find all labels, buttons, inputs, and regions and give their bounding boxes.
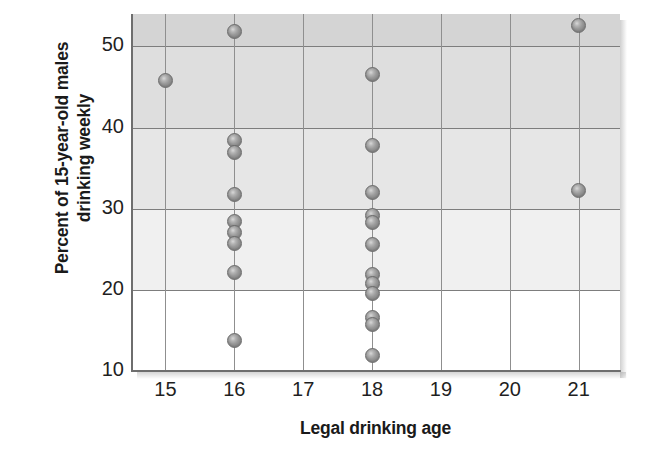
data-point [365, 286, 380, 301]
x-axis-tick-label: 20 [485, 378, 535, 401]
x-axis-tick-label: 17 [278, 378, 328, 401]
data-point [227, 236, 242, 251]
x-axis-tick-label: 16 [209, 378, 259, 401]
data-point [158, 73, 173, 88]
data-point [365, 317, 380, 332]
data-point [227, 333, 242, 348]
x-axis-tick-label: 21 [554, 378, 604, 401]
data-point [571, 18, 586, 33]
scatter-chart: Percent of 15-year-old males drinking we… [0, 0, 665, 454]
x-axis-tick-label: 15 [140, 378, 190, 401]
data-point [365, 237, 380, 252]
gridline-vertical [510, 14, 511, 371]
background-band [131, 14, 620, 46]
plot-area [131, 14, 620, 371]
data-point [365, 67, 380, 82]
gridline-horizontal [131, 128, 620, 129]
gridline-vertical [303, 14, 304, 371]
gridline-vertical [165, 14, 166, 371]
y-axis-line [131, 14, 133, 372]
plot-frame-shadow-right [620, 20, 627, 378]
data-point [227, 145, 242, 160]
gridline-vertical [441, 14, 442, 371]
y-axis-tick-label: 30 [80, 196, 124, 219]
x-axis-title: Legal drinking age [131, 418, 620, 439]
y-axis-tick-label: 20 [80, 277, 124, 300]
y-axis-title-line1: Percent of 15-year-old males [52, 42, 74, 275]
background-band [131, 46, 620, 127]
data-point [365, 215, 380, 230]
data-point [365, 348, 380, 363]
x-axis-tick-label: 18 [347, 378, 397, 401]
data-point [365, 138, 380, 153]
y-axis-tick-labels: 1020304050 [76, 0, 124, 454]
x-axis-tick-label: 19 [416, 378, 466, 401]
gridline-horizontal [131, 46, 620, 47]
y-axis-tick-label: 50 [80, 33, 124, 56]
y-axis-tick-label: 10 [80, 358, 124, 381]
y-axis-tick-label: 40 [80, 115, 124, 138]
data-point [365, 185, 380, 200]
data-point [227, 265, 242, 280]
